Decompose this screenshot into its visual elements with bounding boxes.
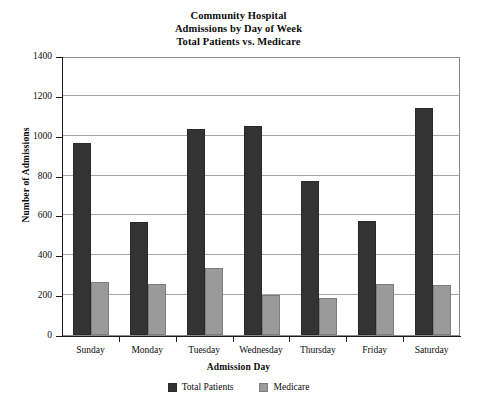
y-axis-tick-label: 1200: [0, 91, 52, 101]
x-axis-tick: [289, 336, 290, 342]
bar-sunday-medicare: [91, 282, 109, 335]
y-axis-tick-label: 1000: [0, 131, 52, 141]
x-axis-tick-label-sunday: Sunday: [62, 345, 119, 355]
bar-wednesday-medicare: [262, 295, 280, 335]
bar-saturday-total-patients: [415, 108, 433, 335]
y-axis-tick-label: 600: [0, 210, 52, 220]
x-axis-tick: [346, 336, 347, 342]
bar-thursday-total-patients: [301, 181, 319, 335]
x-axis-tick-label-wednesday: Wednesday: [233, 345, 290, 355]
y-axis-line: [62, 57, 63, 337]
y-axis-tick-label: 800: [0, 171, 52, 181]
y-axis-tick: [56, 177, 62, 178]
y-axis-tick-label: 1400: [0, 51, 52, 61]
legend-item-total-patients[interactable]: Total Patients: [168, 382, 234, 392]
bar-sunday-total-patients: [73, 143, 91, 335]
x-axis-tick: [176, 336, 177, 342]
x-axis-tick-label-monday: Monday: [119, 345, 176, 355]
x-axis-title: Admission Day: [0, 362, 477, 372]
y-axis-tick-label: 0: [0, 330, 52, 340]
legend-item-medicare[interactable]: Medicare: [259, 382, 309, 392]
bar-tuesday-medicare: [205, 268, 223, 335]
x-axis-tick: [233, 336, 234, 342]
y-axis-tick: [56, 296, 62, 297]
chart-legend: Total PatientsMedicare: [0, 382, 477, 392]
bar-wednesday-total-patients: [244, 126, 262, 335]
plot-area: [62, 57, 460, 336]
x-axis-line: [62, 336, 461, 337]
y-axis-tick-label: 400: [0, 250, 52, 260]
y-axis-tick: [56, 97, 62, 98]
bar-friday-total-patients: [358, 221, 376, 335]
chart-title: Community Hospital Admissions by Day of …: [0, 10, 477, 48]
y-axis-tick: [56, 256, 62, 257]
y-axis-tick: [56, 216, 62, 217]
x-axis-tick-label-friday: Friday: [346, 345, 403, 355]
y-axis-tick: [56, 57, 62, 58]
bar-thursday-medicare: [319, 298, 337, 335]
chart-title-line-3: Total Patients vs. Medicare: [0, 36, 477, 49]
bar-saturday-medicare: [433, 285, 451, 335]
y-axis-tick: [56, 336, 62, 337]
gridline: [63, 95, 459, 96]
x-axis-tick-label-thursday: Thursday: [289, 345, 346, 355]
legend-label: Total Patients: [182, 382, 234, 392]
bar-monday-medicare: [148, 284, 166, 335]
chart-title-line-2: Admissions by Day of Week: [0, 23, 477, 36]
legend-label: Medicare: [273, 382, 309, 392]
bar-chart-figure: Community Hospital Admissions by Day of …: [0, 0, 477, 411]
x-axis-tick: [119, 336, 120, 342]
y-axis-tick: [56, 137, 62, 138]
x-axis-tick-label-tuesday: Tuesday: [176, 345, 233, 355]
y-axis-tick-label: 200: [0, 290, 52, 300]
bar-friday-medicare: [376, 284, 394, 335]
legend-swatch-icon: [259, 383, 268, 392]
bar-monday-total-patients: [130, 222, 148, 335]
bar-tuesday-total-patients: [187, 129, 205, 335]
legend-swatch-icon: [168, 383, 177, 392]
x-axis-tick: [403, 336, 404, 342]
chart-title-line-1: Community Hospital: [0, 10, 477, 23]
x-axis-tick-label-saturday: Saturday: [403, 345, 460, 355]
